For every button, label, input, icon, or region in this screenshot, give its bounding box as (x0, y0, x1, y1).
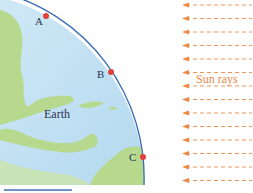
arrow-left-icon (182, 43, 189, 48)
point-a-marker (43, 13, 49, 19)
arrow-left-icon (182, 164, 189, 169)
sun-rays (182, 2, 252, 183)
point-b-label: B (97, 69, 104, 80)
earth-sunrays-diagram: A B C Earth Sun rays (0, 0, 253, 193)
arrow-left-icon (182, 70, 189, 75)
arrow-left-icon (182, 97, 189, 102)
arrow-left-icon (182, 110, 189, 115)
arrow-left-icon (182, 16, 189, 21)
point-a-label: A (35, 16, 43, 27)
point-c-marker (140, 154, 146, 160)
arrow-left-icon (182, 137, 189, 142)
arrow-left-icon (182, 178, 189, 183)
arrow-left-icon (182, 83, 189, 88)
point-b-marker (108, 69, 114, 75)
arrow-left-icon (182, 29, 189, 34)
arrow-left-icon (182, 2, 189, 7)
diagram-canvas (0, 0, 253, 193)
earth-label: Earth (44, 108, 70, 120)
arrow-left-icon (182, 124, 189, 129)
arrow-left-icon (182, 56, 189, 61)
sun-rays-label: Sun rays (195, 73, 239, 85)
point-c-label: C (129, 152, 136, 163)
arrow-left-icon (182, 151, 189, 156)
